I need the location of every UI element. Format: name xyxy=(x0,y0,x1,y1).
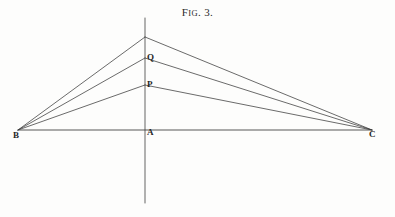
line-b-to-q xyxy=(18,58,145,130)
point-label-q: Q xyxy=(147,53,154,62)
point-label-c: C xyxy=(369,130,376,139)
figure-container: FIG. 3. B C A P Q xyxy=(0,0,395,217)
geometry-drawing xyxy=(0,0,395,217)
line-apex-to-c xyxy=(145,37,372,130)
point-label-p: P xyxy=(147,80,153,89)
point-label-b: B xyxy=(13,131,19,140)
line-q-to-c xyxy=(145,58,372,130)
line-p-to-c xyxy=(145,85,372,130)
line-b-to-p xyxy=(18,85,145,130)
point-label-a: A xyxy=(147,128,154,137)
line-b-to-apex xyxy=(18,37,145,130)
